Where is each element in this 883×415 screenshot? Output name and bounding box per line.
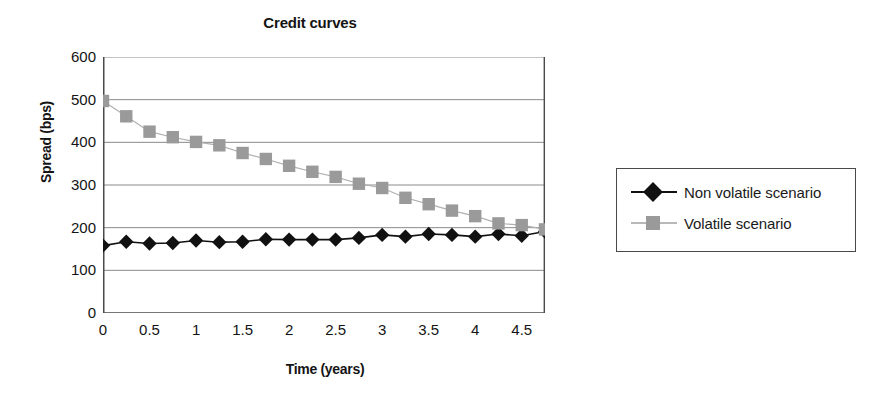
x-tick-label: 1 <box>176 322 216 337</box>
data-point <box>398 229 412 243</box>
data-point <box>212 235 226 249</box>
data-point <box>492 217 504 229</box>
y-tick-label: 500 <box>42 92 96 107</box>
legend-marker-diamond-icon <box>631 183 677 201</box>
y-tick-label: 300 <box>42 177 96 192</box>
legend-label-volatile-scenario: Volatile scenario <box>677 215 792 232</box>
credit-curves-figure: Credit curves Spread (bps) 0100200300400… <box>0 0 883 415</box>
data-point <box>103 238 110 252</box>
data-point <box>213 139 225 151</box>
x-axis-tick-labels: 00.511.522.533.544.5 <box>103 322 545 346</box>
y-tick-label: 400 <box>42 134 96 149</box>
y-tick-label: 600 <box>42 49 96 64</box>
x-tick-label: 4 <box>455 322 495 337</box>
data-point <box>445 228 459 242</box>
data-point <box>120 110 132 122</box>
data-point <box>446 204 458 216</box>
chart-title: Credit curves <box>180 14 440 31</box>
series-markers-0 <box>103 224 545 252</box>
data-point <box>305 232 319 246</box>
legend-item-non-volatile-scenario[interactable]: Non volatile scenario <box>631 181 821 203</box>
legend-marker-square-icon <box>631 214 677 232</box>
data-point <box>143 125 155 137</box>
data-point <box>375 228 389 242</box>
x-tick-label: 0 <box>83 322 123 337</box>
data-point <box>516 219 528 231</box>
data-point <box>166 236 180 250</box>
data-point <box>399 192 411 204</box>
data-point <box>119 235 133 249</box>
x-tick-label: 3.5 <box>409 322 449 337</box>
x-axis-title: Time (years) <box>104 361 546 377</box>
chart-legend: Non volatile scenario Volatile scenario <box>616 168 856 252</box>
data-point <box>422 198 434 210</box>
data-point <box>468 229 482 243</box>
plot-area <box>103 57 545 313</box>
data-point <box>260 153 272 165</box>
data-point <box>167 131 179 143</box>
data-point <box>103 95 109 107</box>
y-axis-tick-labels: 0100200300400500600 <box>36 57 96 313</box>
data-point <box>539 223 545 235</box>
x-tick-label: 1.5 <box>223 322 263 337</box>
data-point <box>142 236 156 250</box>
data-point <box>306 166 318 178</box>
data-point <box>328 232 342 246</box>
y-tick-label: 100 <box>42 262 96 277</box>
data-point <box>329 171 341 183</box>
x-tick-label: 2 <box>269 322 309 337</box>
series-markers-1 <box>103 95 545 236</box>
y-tick-label: 0 <box>42 305 96 320</box>
x-tick-label: 4.5 <box>502 322 542 337</box>
data-point <box>259 232 273 246</box>
data-point <box>190 136 202 148</box>
y-tick-label: 200 <box>42 220 96 235</box>
data-point <box>235 235 249 249</box>
data-point <box>283 160 295 172</box>
data-point <box>353 178 365 190</box>
x-tick-label: 0.5 <box>130 322 170 337</box>
x-tick-label: 2.5 <box>316 322 356 337</box>
legend-item-volatile-scenario[interactable]: Volatile scenario <box>631 212 792 234</box>
data-point <box>282 232 296 246</box>
data-point <box>352 231 366 245</box>
data-point <box>236 147 248 159</box>
data-point <box>421 227 435 241</box>
data-point <box>189 233 203 247</box>
plot-svg <box>103 57 545 313</box>
data-point <box>376 182 388 194</box>
x-tick-label: 3 <box>362 322 402 337</box>
legend-label-non-volatile-scenario: Non volatile scenario <box>677 184 821 201</box>
data-point <box>469 210 481 222</box>
